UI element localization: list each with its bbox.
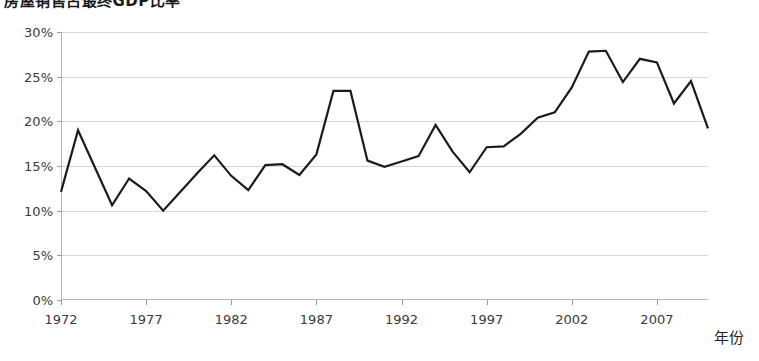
x-axis-tick-label: 1972 [44, 312, 77, 327]
x-tick-mark [657, 300, 658, 305]
y-axis-tick-label: 20% [24, 114, 53, 129]
x-axis-tick-label: 1977 [130, 312, 163, 327]
x-tick-mark [61, 300, 62, 305]
x-tick-mark [402, 300, 403, 305]
y-axis-tick-label: 0% [32, 293, 53, 308]
series-line-chart [61, 32, 708, 300]
plot-area [61, 32, 708, 300]
y-axis-tick-label: 25% [24, 69, 53, 84]
x-tick-mark [231, 300, 232, 305]
x-tick-mark [146, 300, 147, 305]
chart-title: 房屋销售占最终GDP比率 [4, 0, 181, 10]
y-axis-tick-label: 30% [24, 25, 53, 40]
y-axis-tick-label: 10% [24, 203, 53, 218]
x-axis-tick-label: 2002 [555, 312, 588, 327]
y-axis-tick-label: 15% [24, 159, 53, 174]
x-axis-tick-label: 1982 [215, 312, 248, 327]
x-tick-mark [316, 300, 317, 305]
x-tick-mark [572, 300, 573, 305]
y-axis-tick-label: 5% [32, 248, 53, 263]
x-axis-title: 年份 [714, 326, 744, 347]
x-axis-tick-label: 2007 [640, 312, 673, 327]
x-axis-tick-label: 1992 [385, 312, 418, 327]
series-path-housing-share [61, 51, 708, 211]
x-tick-mark [487, 300, 488, 305]
chart-container: 房屋销售占最终GDP比率 0%5%10%15%20%25%30% 1972197… [0, 0, 759, 361]
x-axis-tick-label: 1997 [470, 312, 503, 327]
x-axis-tick-label: 1987 [300, 312, 333, 327]
